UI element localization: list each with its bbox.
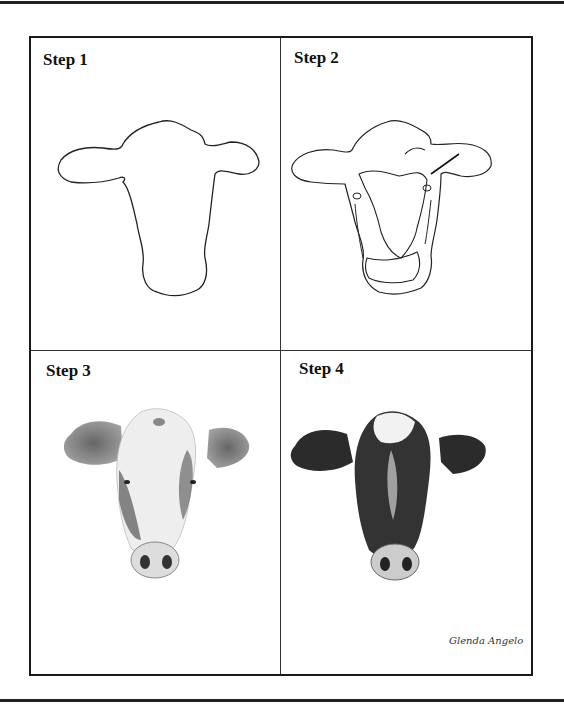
top-rule [0, 1, 564, 4]
step-4-finished-drawing [281, 350, 531, 674]
step-1-outline-drawing [31, 38, 281, 350]
steps-grid: Step 1 Step 2 Step 3 Step 4 [29, 36, 533, 676]
artist-signature: Glenda Angelo [449, 635, 523, 646]
bottom-rule [0, 699, 564, 702]
step-3-shaded-drawing [31, 350, 281, 674]
step-2-contour-drawing [281, 38, 531, 350]
